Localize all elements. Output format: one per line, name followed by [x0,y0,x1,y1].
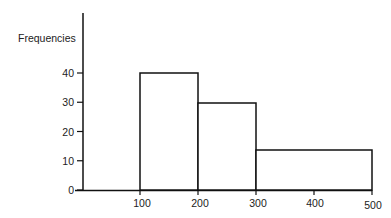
y-tick-label: 10 [62,155,74,167]
x-tick-label: 500 [364,199,382,211]
x-tick-label: 200 [191,197,209,209]
y-ticks: 0 10 20 30 40 [62,67,83,196]
bar-200-300 [198,103,256,190]
histogram-chart: Frequencies 0 10 20 30 40 100 200 300 40… [0,0,391,218]
y-tick-label: 30 [62,96,74,108]
x-tick-label: 300 [249,197,267,209]
bar-300-500 [256,150,372,190]
x-tick-label: 100 [133,197,151,209]
y-tick-label: 40 [62,67,74,79]
histogram-bars [140,73,372,190]
x-tick-label: 400 [306,197,324,209]
y-tick-label: 20 [62,126,74,138]
y-axis-label: Frequencies [18,32,76,44]
x-ticks: 100 200 300 400 500 [133,190,382,211]
y-tick-label: 0 [68,184,74,196]
bar-100-200 [140,73,198,190]
